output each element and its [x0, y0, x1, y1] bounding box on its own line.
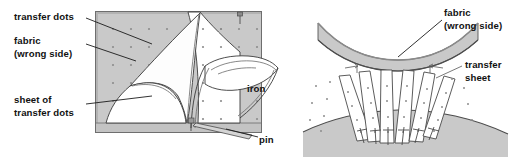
illustration-figure: transfer dots fabric (wrong side) sheet … [0, 0, 519, 157]
pin-bottom-head [189, 118, 195, 123]
right-panel [303, 20, 508, 157]
label-fabric-right-line1: fabric [444, 7, 471, 18]
label-fabric-line1: fabric [14, 35, 41, 46]
label-iron: iron [247, 83, 266, 94]
label-pin: pin [259, 134, 274, 145]
label-sheet-line2: transfer dots [14, 107, 74, 118]
leader-fabric-wrong-side-right [398, 20, 442, 57]
diagram-canvas: transfer dots fabric (wrong side) sheet … [0, 0, 519, 157]
left-panel [86, 11, 278, 139]
label-transfer-sheet-line2: sheet [465, 72, 491, 83]
pin-top-head [238, 12, 243, 16]
label-sheet-line1: sheet of [14, 94, 52, 105]
transfer-sheet-strips [339, 70, 455, 143]
label-transfer-dots: transfer dots [14, 11, 74, 22]
label-transfer-sheet-line1: transfer [465, 59, 502, 70]
label-fabric-right-line2: (wrong side) [444, 20, 502, 31]
spread-arrow-left [345, 64, 358, 68]
transfer-strip [380, 70, 394, 143]
label-fabric-line2: (wrong side) [14, 48, 72, 59]
